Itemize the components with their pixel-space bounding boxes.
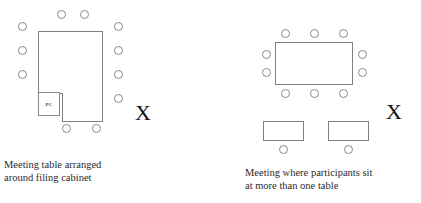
right-secondary-table-2-seat [344, 145, 353, 154]
left-main-table [38, 31, 103, 94]
left-seat-left-1 [18, 22, 27, 31]
left-seat-top-2 [80, 10, 89, 19]
right-seat-bottom-3 [339, 89, 348, 98]
left-seat-right-3 [114, 70, 123, 79]
right-seat-bottom-1 [281, 89, 290, 98]
left-x-marker: X [135, 102, 151, 124]
left-seat-bottom-2 [92, 124, 101, 133]
right-diagram: X Meeting where participants sit at more… [240, 0, 421, 203]
right-seat-left-1 [262, 50, 271, 59]
right-seat-top-2 [310, 29, 319, 38]
right-secondary-table-2 [328, 121, 369, 141]
right-x-marker: X [386, 101, 402, 123]
right-diagram-caption: Meeting where participants sit at more t… [245, 166, 420, 192]
right-seat-left-2 [262, 68, 271, 77]
figure-canvas: PC X Meeting table arranged around filin… [0, 0, 421, 203]
right-secondary-table-1-seat [279, 145, 288, 154]
left-seat-right-4 [114, 94, 123, 103]
left-diagram-caption: Meeting table arranged around filing cab… [4, 158, 154, 184]
right-main-table [275, 42, 353, 85]
right-seat-bottom-2 [310, 89, 319, 98]
left-seat-bottom-1 [62, 124, 71, 133]
left-seat-left-2 [18, 46, 27, 55]
left-diagram: PC X Meeting table arranged around filin… [0, 0, 170, 203]
left-table-extension [62, 94, 103, 122]
left-pc-filing-cabinet: PC [38, 92, 60, 116]
left-table-edge-mask [63, 93, 102, 96]
right-seat-right-1 [358, 50, 367, 59]
right-seat-top-3 [339, 29, 348, 38]
right-seat-top-1 [281, 29, 290, 38]
left-seat-right-1 [114, 22, 123, 31]
left-seat-right-2 [114, 46, 123, 55]
pc-cabinet-label: PC [45, 102, 52, 107]
left-seat-top-1 [57, 10, 66, 19]
right-secondary-table-1 [263, 121, 304, 141]
right-seat-right-2 [358, 68, 367, 77]
left-seat-left-3 [18, 70, 27, 79]
